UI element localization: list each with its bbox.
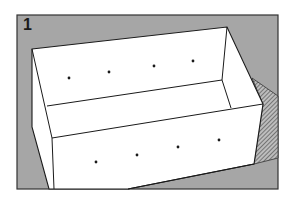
- box-silhouette: [32, 27, 263, 189]
- step-number: 1: [23, 16, 32, 34]
- box-diagram: [0, 0, 295, 202]
